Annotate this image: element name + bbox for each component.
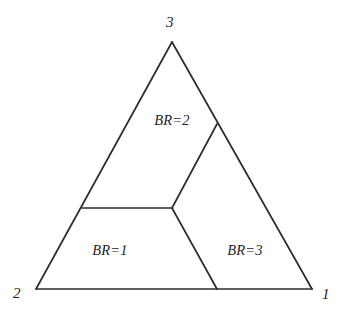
region-label-br3: BR=3 xyxy=(227,243,263,258)
diagram-canvas: 3 2 1 BR=2 BR=1 BR=3 xyxy=(0,0,347,318)
region-label-br2: BR=2 xyxy=(154,113,190,128)
partition-segment-to-bottom-edge xyxy=(172,208,217,289)
region-label-br1: BR=1 xyxy=(92,243,128,258)
simplex-triangle-graphic xyxy=(0,0,347,318)
vertex-label-2: 2 xyxy=(13,286,21,301)
vertex-label-3: 3 xyxy=(166,15,174,30)
vertex-label-1: 1 xyxy=(322,287,330,302)
partition-segment-to-right-edge xyxy=(172,124,217,208)
